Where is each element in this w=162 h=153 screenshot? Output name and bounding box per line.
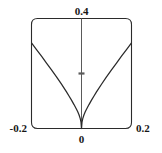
y-axis-label-top: 0.4 <box>75 5 89 17</box>
x-axis-label-right: 0.2 <box>136 122 150 134</box>
cusp-curve-plot: 0.4 -0.2 0 0.2 <box>0 0 162 153</box>
plot-container: 0.4 -0.2 0 0.2 <box>0 0 162 153</box>
x-axis-label-left: -0.2 <box>10 122 28 134</box>
x-axis-label-center: 0 <box>79 133 85 145</box>
